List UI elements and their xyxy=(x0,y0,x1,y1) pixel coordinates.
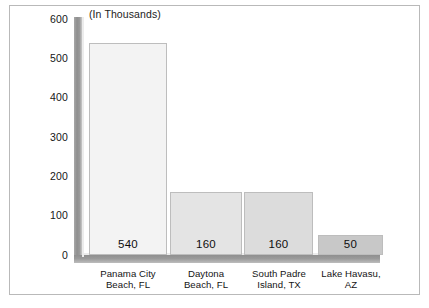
bar-lake-havasu-az[interactable]: 50 xyxy=(318,235,383,255)
chart-title: (In Thousands) xyxy=(89,8,161,20)
bar-daytona-beach-fl[interactable]: 160 xyxy=(170,192,242,255)
y-tick-300: 300 xyxy=(26,131,68,143)
category-label-line1: Panama City xyxy=(84,268,172,279)
y-tick-400: 400 xyxy=(26,91,68,103)
y-axis-tick-labels: 600 500 400 300 200 100 0 xyxy=(26,0,68,308)
category-label-line2: AZ xyxy=(312,279,390,290)
category-label-line2: Beach, FL xyxy=(165,279,247,290)
bar-value-label: 160 xyxy=(171,238,241,250)
y-tick-100: 100 xyxy=(26,209,68,221)
bar-chart: (In Thousands) 600 500 400 300 200 100 0… xyxy=(0,0,429,308)
category-label-line1: South Padre xyxy=(239,268,319,279)
category-label-line2: Beach, FL xyxy=(84,279,172,290)
bar-south-padre-island-tx[interactable]: 160 xyxy=(244,192,313,255)
category-label-lake-havasu-az: Lake Havasu, AZ xyxy=(312,268,390,291)
category-label-panama-city-beach-fl: Panama City Beach, FL xyxy=(84,268,172,291)
bar-panama-city-beach-fl[interactable]: 540 xyxy=(89,43,167,255)
y-tick-200: 200 xyxy=(26,170,68,182)
category-label-line2: Island, TX xyxy=(239,279,319,290)
y-tick-600: 600 xyxy=(26,13,68,25)
y-axis-inner-edge xyxy=(82,17,84,257)
bar-value-label: 50 xyxy=(319,238,382,250)
category-label-line1: Daytona xyxy=(165,268,247,279)
plot-area: (In Thousands) 600 500 400 300 200 100 0… xyxy=(0,0,429,308)
x-axis xyxy=(74,255,380,263)
category-label-south-padre-island-tx: South Padre Island, TX xyxy=(239,268,319,291)
category-label-line1: Lake Havasu, xyxy=(312,268,390,279)
y-tick-500: 500 xyxy=(26,52,68,64)
bar-value-label: 160 xyxy=(245,238,312,250)
y-axis xyxy=(74,17,82,263)
category-label-daytona-beach-fl: Daytona Beach, FL xyxy=(165,268,247,291)
bar-value-label: 540 xyxy=(90,238,166,250)
y-tick-0: 0 xyxy=(26,249,68,261)
